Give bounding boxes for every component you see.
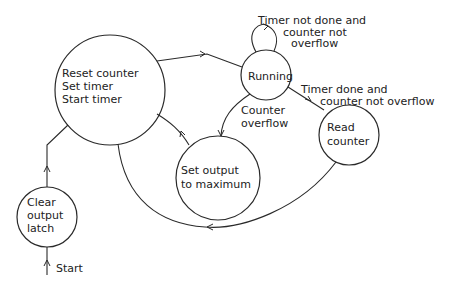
self-loop-label-3: overflow [291, 37, 338, 50]
state-diagram: Reset counter Set timer Start timer Runn… [0, 0, 456, 288]
state-reset-line-1: Reset counter [62, 67, 139, 80]
state-read-line-1: Read [327, 121, 355, 134]
state-reset-counter: Reset counter Set timer Start timer [55, 35, 165, 145]
state-set-output-max: Set output to maximum [176, 136, 260, 220]
edge-running-self-loop: Timer not done and counter not overflow [252, 14, 366, 52]
edge-clear-to-reset [44, 125, 68, 187]
running-read-label-2: counter not overflow [320, 95, 435, 108]
edge-reset-to-running [157, 51, 242, 67]
state-clear-output-latch: Clear output latch [17, 187, 77, 247]
state-setmax-line-2: to maximum [181, 178, 251, 191]
state-clear-line-1: Clear [27, 196, 56, 209]
state-setmax-line-1: Set output [181, 164, 240, 177]
state-clear-line-2: output [27, 209, 64, 222]
state-read-counter: Read counter [319, 105, 379, 165]
running-setmax-label-2: overflow [241, 117, 288, 130]
state-running: Running [241, 50, 293, 100]
running-setmax-label-1: Counter [241, 104, 285, 117]
state-clear-line-3: latch [27, 222, 54, 235]
edge-running-to-read: Timer done and counter not overflow [288, 83, 435, 110]
start-label: Start [56, 262, 84, 275]
state-reset-line-2: Set timer [62, 80, 113, 93]
edge-running-to-setmax: Counter overflow [218, 94, 288, 136]
state-reset-line-3: Start timer [62, 93, 122, 106]
edge-start-to-clear: Start [44, 247, 84, 275]
edge-setmax-to-reset [157, 114, 189, 145]
state-running-label: Running [248, 70, 293, 83]
state-read-line-2: counter [327, 135, 370, 148]
